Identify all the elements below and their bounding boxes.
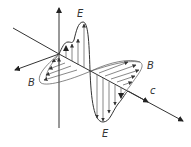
e-label-bottom: E <box>102 128 109 139</box>
c-label: c <box>150 85 156 96</box>
e-label-top: E <box>77 8 84 19</box>
b-label-left: B <box>28 77 35 88</box>
velocity-arrow <box>128 91 148 102</box>
propagation-axis-back <box>13 28 59 54</box>
b-label-right: B <box>147 60 154 71</box>
em-wave-diagram: E B B c E <box>0 0 191 147</box>
propagation-axis <box>59 54 183 121</box>
